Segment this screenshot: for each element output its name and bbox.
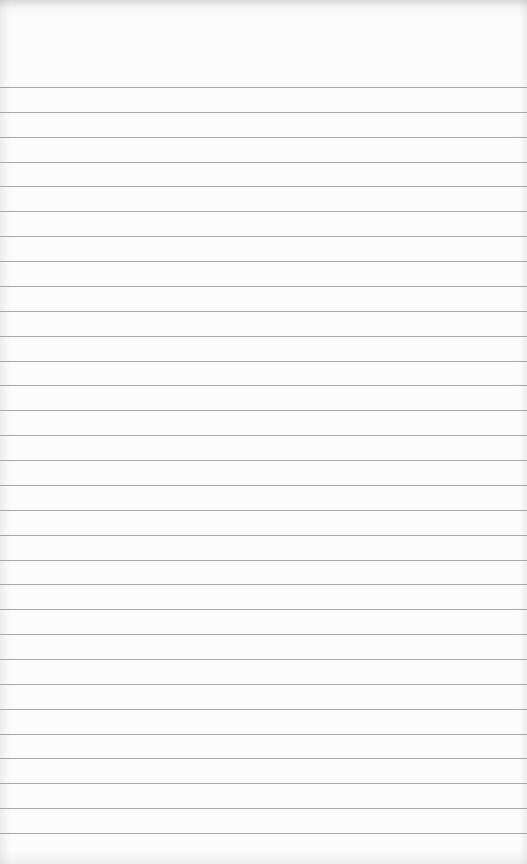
ruled-line <box>0 808 527 809</box>
ruled-line <box>0 361 527 362</box>
ruled-line <box>0 709 527 710</box>
ruled-line <box>0 236 527 237</box>
ruled-line <box>0 485 527 486</box>
ruled-line <box>0 460 527 461</box>
ruled-line <box>0 659 527 660</box>
ruled-line <box>0 560 527 561</box>
ruled-line <box>0 410 527 411</box>
ruled-line <box>0 211 527 212</box>
ruled-line <box>0 87 527 88</box>
ruled-line <box>0 634 527 635</box>
ruled-line <box>0 336 527 337</box>
ruled-line <box>0 286 527 287</box>
ruled-line <box>0 783 527 784</box>
ruled-line <box>0 734 527 735</box>
ruled-line <box>0 385 527 386</box>
ruled-line <box>0 535 527 536</box>
ruled-line <box>0 112 527 113</box>
ruled-line <box>0 833 527 834</box>
ruled-line <box>0 435 527 436</box>
lined-paper <box>0 0 527 864</box>
ruled-line <box>0 584 527 585</box>
ruled-line <box>0 684 527 685</box>
ruled-line <box>0 162 527 163</box>
ruled-line <box>0 137 527 138</box>
ruled-line <box>0 510 527 511</box>
ruled-line <box>0 186 527 187</box>
ruled-line <box>0 261 527 262</box>
ruled-line <box>0 311 527 312</box>
ruled-line <box>0 758 527 759</box>
ruled-line <box>0 609 527 610</box>
